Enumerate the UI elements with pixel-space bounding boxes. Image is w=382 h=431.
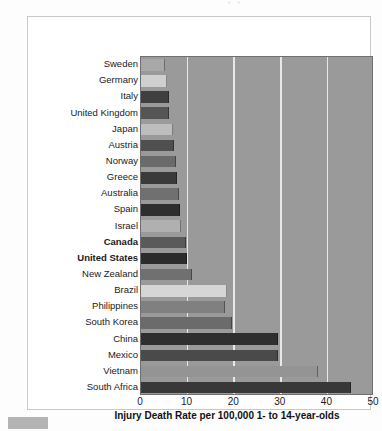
x-tick-20: 20 <box>228 396 239 407</box>
category-label-south-africa: South Africa <box>28 381 138 393</box>
bar-spain <box>141 204 180 216</box>
category-label-united-kingdom: United Kingdom <box>28 107 138 119</box>
category-label-mexico: Mexico <box>28 349 138 361</box>
bar-united-states <box>141 253 187 265</box>
category-label-greece: Greece <box>28 171 138 183</box>
category-label-brazil: Brazil <box>28 284 138 296</box>
category-label-austria: Austria <box>28 139 138 151</box>
bar-row <box>141 235 373 251</box>
category-label-norway: Norway <box>28 155 138 167</box>
bar-austria <box>141 140 174 152</box>
bar-row <box>141 73 373 89</box>
category-label-china: China <box>28 333 138 345</box>
bar-greece <box>141 172 177 184</box>
category-label-germany: Germany <box>28 74 138 86</box>
bar-south-africa <box>141 382 351 394</box>
bar-row <box>141 138 373 154</box>
bar-vietnam <box>141 366 318 378</box>
x-tick-30: 30 <box>274 396 285 407</box>
figure-frame: SwedenGermanyItalyUnited KingdomJapanAus… <box>27 16 371 410</box>
bar-row <box>141 89 373 105</box>
bar-row <box>141 267 373 283</box>
chart-page: · · SwedenGermanyItalyUnited KingdomJapa… <box>0 0 382 431</box>
x-axis-title: Injury Death Rate per 100,000 1- to 14-y… <box>55 410 382 421</box>
bar-row <box>141 283 373 299</box>
bar-row <box>141 57 373 73</box>
category-label-australia: Australia <box>28 187 138 199</box>
bar-germany <box>141 75 167 87</box>
bar-row <box>141 251 373 267</box>
category-label-philippines: Philippines <box>28 300 138 312</box>
plot-area <box>140 56 373 395</box>
category-label-israel: Israel <box>28 220 138 232</box>
bar-japan <box>141 124 173 136</box>
category-label-japan: Japan <box>28 123 138 135</box>
bar-row <box>141 218 373 234</box>
bar-brazil <box>141 285 227 297</box>
x-tick-40: 40 <box>321 396 332 407</box>
bar-row <box>141 170 373 186</box>
category-label-vietnam: Vietnam <box>28 365 138 377</box>
bar-row <box>141 154 373 170</box>
category-label-new-zealand: New Zealand <box>28 268 138 280</box>
bar-row <box>141 315 373 331</box>
category-label-south-korea: South Korea <box>28 316 138 328</box>
bar-south-korea <box>141 317 232 329</box>
bar-row <box>141 186 373 202</box>
category-label-sweden: Sweden <box>28 58 138 70</box>
category-label-united-states: United States <box>28 252 138 264</box>
bar-row <box>141 348 373 364</box>
category-labels-column: SwedenGermanyItalyUnited KingdomJapanAus… <box>58 56 138 395</box>
bar-row <box>141 331 373 347</box>
bar-row <box>141 122 373 138</box>
bar-israel <box>141 220 181 232</box>
category-label-spain: Spain <box>28 203 138 215</box>
category-label-canada: Canada <box>28 236 138 248</box>
bar-row <box>141 380 373 395</box>
x-tick-0: 0 <box>137 396 143 407</box>
x-tick-50: 50 <box>367 396 378 407</box>
bar-china <box>141 333 278 345</box>
bar-row <box>141 299 373 315</box>
bar-row <box>141 105 373 121</box>
x-tick-10: 10 <box>181 396 192 407</box>
bar-row <box>141 202 373 218</box>
scan-artifact-block <box>8 417 48 429</box>
bar-mexico <box>141 350 278 362</box>
bar-new-zealand <box>141 269 192 281</box>
x-axis-tick-labels: 01020304050 <box>140 396 373 410</box>
bar-norway <box>141 156 176 168</box>
bar-philippines <box>141 301 225 313</box>
scan-top-text-fragment: · · <box>228 0 318 8</box>
bar-united-kingdom <box>141 107 169 119</box>
bar-canada <box>141 237 186 249</box>
category-label-italy: Italy <box>28 90 138 102</box>
bar-row <box>141 364 373 380</box>
bar-sweden <box>141 59 165 71</box>
bar-italy <box>141 91 169 103</box>
bar-australia <box>141 188 179 200</box>
